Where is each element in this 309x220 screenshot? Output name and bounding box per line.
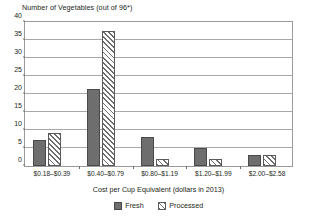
x-tick-mark [240,166,241,169]
legend-swatch-fresh-icon [114,202,122,210]
x-tick-label: $0.40–$0.79 [87,170,124,177]
legend-label: Fresh [125,201,143,210]
vegetable-cost-bar-chart: Number of Vegetables (out of 96*) 051015… [0,0,309,220]
bar-group [186,22,240,166]
y-tick-label: 30 [14,48,22,55]
plot-area: 0510152025303540 $0.18–$0.39$0.40–$0.79$… [24,21,293,167]
y-tick-label: 5 [18,138,22,145]
y-axis-title: Number of Vegetables (out of 96*) [22,3,132,12]
x-tick-label: $2.00–$2.58 [249,170,286,177]
bar-fresh [33,140,46,166]
x-tick-mark [186,166,187,169]
x-tick-mark [79,166,80,169]
bar-group [240,22,294,166]
y-tick-label: 20 [14,84,22,91]
x-axis-title: Cost per Cup Equivalent (dollars in 2013… [24,185,293,194]
bar-processed [263,155,276,166]
bar-group [79,22,133,166]
x-tick-label: $0.80–$1.19 [141,170,178,177]
bar-fresh [194,148,207,166]
chart-legend: FreshProcessed [24,201,293,210]
bar-processed [209,159,222,166]
legend-swatch-processed-icon [158,202,166,210]
x-tick-label: $0.18–$0.39 [34,170,71,177]
legend-label: Processed [169,201,203,210]
bar-processed [102,31,115,166]
bar-processed [156,159,169,166]
y-tick-label: 0 [18,156,22,163]
y-tick-label: 35 [14,30,22,37]
bar-fresh [248,155,261,166]
x-tick-mark [133,166,134,169]
legend-item-fresh: Fresh [114,201,144,210]
bar-group [25,22,79,166]
y-tick-label: 25 [14,66,22,73]
y-tick-label: 10 [14,120,22,127]
bar-groups [25,22,292,166]
bar-processed [48,133,61,166]
bar-fresh [141,137,154,166]
legend-item-processed: Processed [158,201,203,210]
x-tick-label: $1.20–$1.99 [195,170,232,177]
bar-fresh [87,89,100,166]
bar-group [133,22,187,166]
y-tick-label: 40 [14,12,22,19]
y-tick-label: 15 [14,102,22,109]
